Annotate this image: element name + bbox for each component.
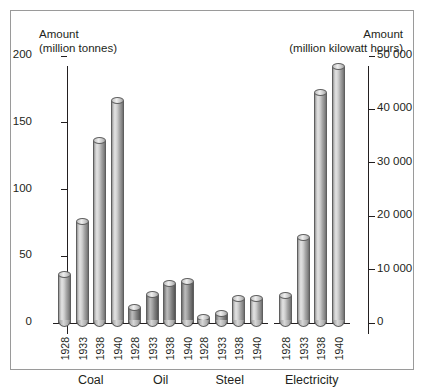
group-label-steel: Steel — [197, 373, 263, 387]
right-tick-mark — [369, 323, 375, 324]
bar-steel-1938 — [232, 299, 245, 323]
year-label: 1938 — [94, 337, 106, 360]
left-tick-mark — [61, 256, 67, 257]
year-label: 1940 — [333, 337, 345, 360]
bar-steel-1933 — [215, 314, 228, 323]
bar-electricity-1933 — [297, 238, 310, 323]
year-label: 1933 — [216, 337, 228, 360]
left-tick-label: 0 — [26, 315, 32, 327]
year-label: 1928 — [280, 337, 292, 360]
left-tick-label: 150 — [13, 115, 32, 127]
group-label-oil: Oil — [128, 373, 194, 387]
right-tick-label: 0 — [377, 315, 383, 327]
year-label: 1928 — [198, 337, 210, 360]
year-label: 1940 — [251, 337, 263, 360]
year-label: 1928 — [129, 337, 141, 360]
bar-electricity-1938 — [314, 93, 327, 323]
year-label: 1928 — [59, 337, 71, 360]
right-tick-label: 40 000 — [377, 101, 412, 113]
bar-coal-1938 — [93, 141, 106, 323]
year-label: 1933 — [147, 337, 159, 360]
chart-frame: Amount (million tonnes) Amount (million … — [10, 10, 414, 370]
bar-steel-1928 — [197, 318, 210, 323]
left-tick-label: 50 — [19, 248, 32, 260]
year-label: 1933 — [298, 337, 310, 360]
year-label: 1938 — [164, 337, 176, 360]
year-label: 1938 — [315, 337, 327, 360]
right-tick-mark — [369, 162, 375, 163]
bar-oil-1933 — [146, 295, 159, 323]
right-tick-mark — [369, 109, 375, 110]
year-label: 1938 — [233, 337, 245, 360]
bar-electricity-1928 — [279, 296, 292, 323]
bar-coal-1933 — [76, 222, 89, 323]
left-axis-title: Amount (million tonnes) — [39, 27, 117, 55]
bar-oil-1928 — [128, 308, 141, 323]
right-tick-label: 10 000 — [377, 262, 412, 274]
left-tick-mark — [61, 189, 67, 190]
group-label-coal: Coal — [58, 373, 124, 387]
right-tick-mark — [369, 216, 375, 217]
bar-steel-1940 — [250, 299, 263, 323]
bar-oil-1940 — [181, 282, 194, 323]
bar-coal-1940 — [111, 101, 124, 323]
right-tick-label: 30 000 — [377, 155, 412, 167]
year-label: 1933 — [77, 337, 89, 360]
right-tick-mark — [369, 269, 375, 270]
left-tick-label: 200 — [13, 48, 32, 60]
bar-electricity-1940 — [332, 67, 345, 323]
bar-oil-1938 — [163, 284, 176, 323]
left-axis-title-line1: Amount — [39, 27, 117, 41]
left-axis-title-line2: (million tonnes) — [39, 41, 117, 55]
left-tick-mark — [61, 56, 67, 57]
right-axis-line — [368, 66, 369, 334]
year-label: 1940 — [182, 337, 194, 360]
right-axis-title-line1: Amount — [289, 27, 403, 41]
left-tick-mark — [61, 122, 67, 123]
right-tick-mark — [369, 56, 375, 57]
group-label-electricity: Electricity — [279, 373, 345, 387]
right-tick-label: 20 000 — [377, 208, 412, 220]
year-label: 1940 — [112, 337, 124, 360]
left-tick-label: 100 — [13, 182, 32, 194]
bar-coal-1928 — [58, 275, 71, 323]
right-tick-label: 50 000 — [377, 48, 412, 60]
